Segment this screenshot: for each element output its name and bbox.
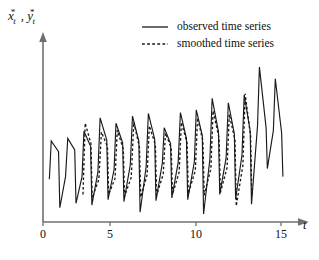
legend-label-observed: observed time series (177, 21, 271, 33)
y-axis-arrow-icon (39, 32, 47, 42)
x-tick-label-15: 15 (275, 228, 287, 240)
legend-item-observed: observed time series (140, 18, 310, 35)
y-axis-var2-subscript: t (33, 16, 36, 26)
chart-legend: observed time series smoothed time serie… (140, 18, 310, 52)
legend-label-smoothed: smoothed time series (177, 38, 274, 50)
y-axis-var1-subscript: t (13, 16, 16, 26)
x-tick-label-0: 0 (40, 228, 46, 240)
x-axis-title: t (303, 219, 306, 232)
x-tick-label-10: 10 (190, 228, 202, 240)
x-tick-label-5: 5 (107, 228, 113, 240)
chart-figure: x*t, y*t t 0 5 10 15 observed time serie… (0, 0, 319, 260)
y-axis-separator: , (21, 8, 24, 23)
legend-item-smoothed: smoothed time series (140, 35, 310, 52)
legend-swatch-solid-icon (140, 21, 170, 33)
legend-swatch-dashed-icon (140, 38, 170, 50)
y-axis-title: x*t, y*t (8, 8, 40, 26)
